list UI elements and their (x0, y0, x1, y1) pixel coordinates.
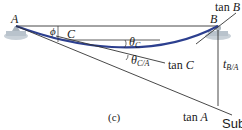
t-BA-label: tB/A (223, 58, 238, 72)
point-C-label: C (67, 28, 75, 40)
theta-CA-arc (126, 55, 128, 60)
trailing-text: Sub (222, 117, 242, 130)
tan-C-label: tan C (168, 59, 194, 71)
figure-caption: (c) (108, 112, 120, 123)
beam-deflection-diagram: A B C ϕ tan B θC θC/A tan C tB/A tan A (… (0, 0, 242, 130)
elastic-curve (16, 26, 218, 47)
tan-A-label: tan A (183, 111, 208, 123)
theta-CA-label: θC/A (131, 54, 149, 68)
tan-B-label: tan B (215, 1, 240, 13)
point-B-label: B (210, 13, 217, 25)
tangent-A-line (16, 26, 232, 115)
theta-C-label: θC (129, 36, 140, 50)
phi-label: ϕ (50, 26, 56, 37)
point-A-label: A (11, 13, 18, 25)
